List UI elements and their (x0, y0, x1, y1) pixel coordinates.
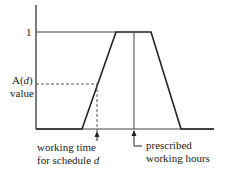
working-time-label-line1: working time (37, 141, 96, 153)
working-time-label-line2: for schedule d (37, 154, 100, 166)
y-tick-one: 1 (26, 26, 32, 38)
a-value-label: value (10, 87, 34, 99)
prescribed-label-line1: prescribed (146, 139, 192, 151)
working-time-arrow-icon (95, 131, 100, 137)
prescribed-label-line2: working hours (146, 152, 210, 164)
membership-curve (36, 32, 214, 129)
trapezoid-membership-diagram: 1 A(d) value working time for schedule d… (0, 0, 227, 171)
prescribed-arrow-icon (132, 130, 137, 136)
a-d-label: A(d) (12, 74, 33, 87)
